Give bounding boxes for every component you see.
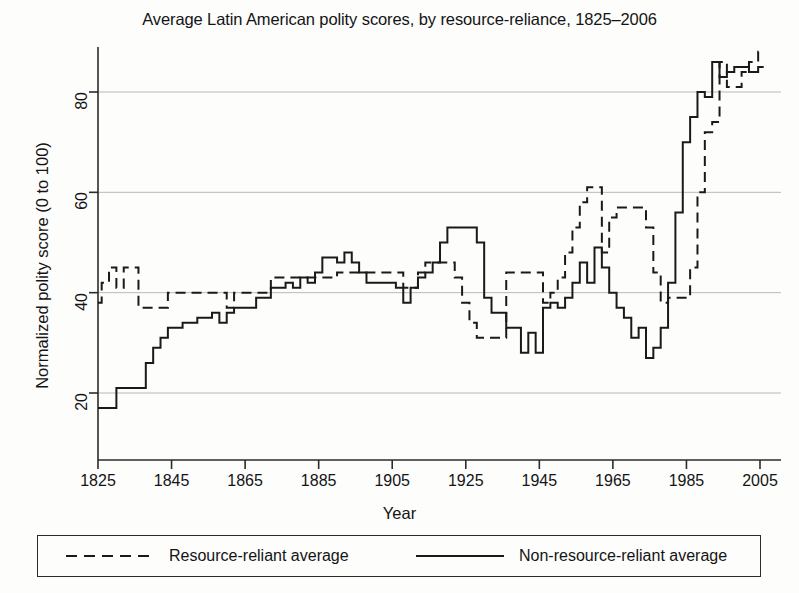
y-axis-ticks (89, 92, 98, 393)
x-tick-label: 1965 (583, 472, 643, 490)
legend-dashed-line-icon (64, 549, 156, 563)
x-tick-label: 2005 (730, 472, 790, 490)
legend-solid-line-icon (414, 549, 506, 563)
x-axis-ticks (98, 460, 760, 469)
x-tick-label: 1845 (142, 472, 202, 490)
legend-label-non-resource-reliant: Non-resource-reliant average (519, 547, 727, 565)
chart-figure: Average Latin American polity scores, by… (0, 0, 799, 593)
x-axis-title: Year (0, 504, 799, 523)
legend-label-resource-reliant: Resource-reliant average (169, 547, 349, 565)
y-tick-label: 40 (73, 293, 91, 327)
x-tick-label: 1865 (215, 472, 275, 490)
legend-entry-resource-reliant: Resource-reliant average (64, 536, 349, 576)
y-tick-label: 80 (73, 92, 91, 126)
x-tick-label: 1885 (289, 472, 349, 490)
x-tick-label: 1985 (656, 472, 716, 490)
y-tick-label: 60 (73, 192, 91, 226)
y-axis-title: Normalized polity score (0 to 100) (33, 106, 52, 426)
x-tick-label: 1945 (509, 472, 569, 490)
data-series (98, 52, 764, 408)
y-tick-label: 20 (73, 393, 91, 427)
series-line-non-resource-reliant (98, 62, 764, 408)
legend-entry-non-resource-reliant: Non-resource-reliant average (414, 536, 727, 576)
x-tick-label: 1905 (362, 472, 422, 490)
series-line-resource-reliant (98, 52, 764, 338)
chart-legend: Resource-reliant average Non-resource-re… (37, 535, 761, 577)
x-tick-label: 1925 (436, 472, 496, 490)
x-tick-label: 1825 (68, 472, 128, 490)
